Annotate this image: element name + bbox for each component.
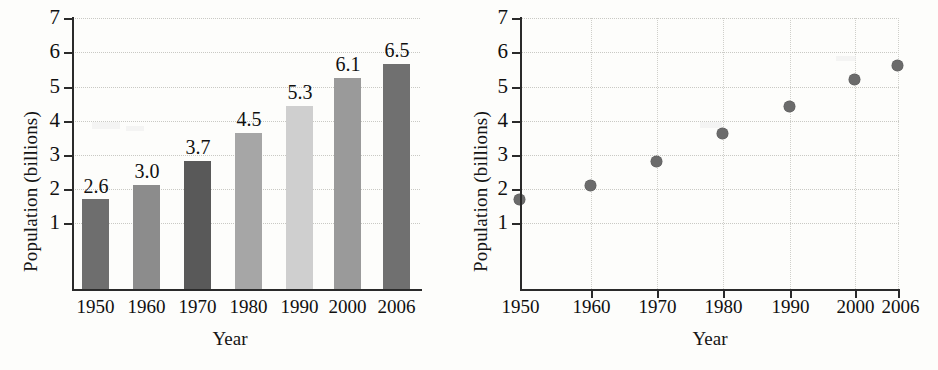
bar-xlabel-2006: 2006 [364, 297, 429, 316]
scatter-ytick-3 [512, 155, 521, 157]
bar-ylabel-5: 5 [34, 76, 60, 97]
bar-gridline-5 [72, 87, 420, 89]
scatter-ylabel-1: 1 [482, 212, 508, 233]
scatter-xlabel-2006: 2006 [868, 297, 933, 316]
bar-2000 [334, 78, 361, 289]
scatter-gridline-6 [520, 52, 899, 54]
bar-value-1970: 3.7 [172, 137, 224, 157]
scatter-xlabel-1960: 1960 [559, 297, 624, 316]
scatter-ytick-5 [512, 87, 521, 89]
scatter-point-1990 [784, 101, 795, 112]
scatter-ytick-2 [512, 189, 521, 191]
scatter-ytick-7 [512, 18, 521, 20]
bar-ytick-4 [64, 121, 73, 123]
bar-value-1950: 2.6 [70, 176, 122, 196]
scatter-ylabel-2: 2 [482, 178, 508, 199]
bar-ytick-2 [64, 189, 73, 191]
scatter-point-1960 [585, 180, 596, 191]
scatter-xlabel-1950: 1950 [488, 297, 553, 316]
bar-x-axis-title: Year [170, 328, 290, 350]
bar-x-axis-line [72, 289, 422, 291]
bar-1990 [286, 106, 313, 289]
scan-artifact [836, 56, 856, 61]
bar-ylabel-7: 7 [34, 7, 60, 28]
bar-ytick-6 [64, 52, 73, 54]
scatter-vgridline-1960 [591, 18, 593, 289]
scatter-gridline-5 [520, 87, 899, 89]
bar-ylabel-1: 1 [34, 212, 60, 233]
scan-artifact [700, 122, 722, 128]
bar-value-1960: 3.0 [121, 161, 173, 181]
scatter-ylabel-6: 6 [482, 41, 508, 62]
scatter-y-axis-line [520, 17, 522, 291]
bar-value-1980: 4.5 [223, 109, 275, 129]
scatter-ytick-1 [512, 223, 521, 225]
figure-page: Population (billions) 2.6 [0, 0, 938, 370]
scatter-ytick-4 [512, 121, 521, 123]
bar-1980 [235, 133, 262, 289]
bar-ytick-7 [64, 18, 73, 20]
scatter-point-2006 [892, 60, 903, 71]
bar-1960 [133, 185, 160, 289]
scatter-gridline-1 [520, 223, 899, 225]
scatter-ylabel-7: 7 [482, 7, 508, 28]
scatter-gridline-3 [520, 155, 899, 157]
scatter-ytick-6 [512, 52, 521, 54]
scatter-plot-area: 7 6 5 4 3 2 1 1950 1960 1970 1980 1990 2… [470, 0, 938, 370]
bar-2006 [383, 64, 410, 289]
scatter-vgridline-1980 [723, 18, 725, 289]
scatter-vgridline-2006 [898, 18, 900, 289]
bar-value-2006: 6.5 [371, 40, 423, 60]
scan-artifact [126, 126, 144, 131]
bar-value-1990: 5.3 [274, 82, 326, 102]
bar-1970 [184, 161, 211, 289]
bar-ylabel-6: 6 [34, 41, 60, 62]
scatter-ylabel-4: 4 [482, 110, 508, 131]
scatter-gridline-7 [520, 18, 899, 20]
scatter-x-axis-line [520, 289, 900, 291]
scatter-gridline-2 [520, 189, 899, 191]
scatter-chart-panel: Population (billions) [470, 0, 938, 370]
bar-ylabel-2: 2 [34, 178, 60, 199]
scatter-ylabel-5: 5 [482, 76, 508, 97]
bar-ytick-1 [64, 223, 73, 225]
scatter-xlabel-1990: 1990 [758, 297, 823, 316]
bar-1950 [82, 199, 109, 289]
scatter-point-1980 [717, 128, 728, 139]
bar-ylabel-4: 4 [34, 110, 60, 131]
bar-gridline-7 [72, 18, 420, 20]
bar-ylabel-3: 3 [34, 144, 60, 165]
bar-y-axis-line [72, 17, 74, 291]
bar-value-2000: 6.1 [322, 54, 374, 74]
scatter-ylabel-3: 3 [482, 144, 508, 165]
scatter-point-1970 [651, 156, 662, 167]
bar-ytick-5 [64, 87, 73, 89]
scatter-x-axis-title: Year [650, 328, 770, 350]
scatter-xlabel-1970: 1970 [625, 297, 690, 316]
bar-chart-panel: Population (billions) 2.6 [0, 0, 470, 370]
scan-artifact [92, 122, 120, 129]
scatter-vgridline-1990 [790, 18, 792, 289]
scatter-vgridline-1970 [657, 18, 659, 289]
scatter-point-2000 [849, 74, 860, 85]
bar-plot-area: 2.6 3.0 3.7 4.5 5.3 6.1 6.5 7 6 5 4 3 2 [0, 0, 470, 370]
scatter-xlabel-1980: 1980 [691, 297, 756, 316]
bar-ytick-3 [64, 155, 73, 157]
